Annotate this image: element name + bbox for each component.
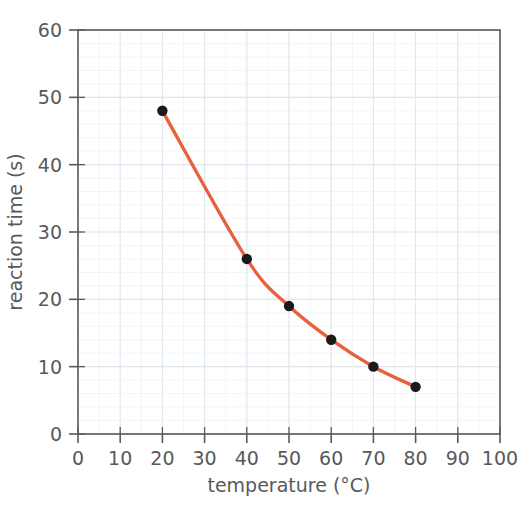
y-tick-label: 30 xyxy=(38,221,62,243)
y-axis-tick-labels: 0102030405060 xyxy=(38,19,62,445)
data-point-marker xyxy=(157,106,167,116)
x-tick-label: 80 xyxy=(404,447,428,469)
x-tick-label: 0 xyxy=(72,447,84,469)
x-tick-label: 30 xyxy=(193,447,217,469)
y-tick-label: 40 xyxy=(38,154,62,176)
reaction-time-line-chart: 0102030405060708090100 0102030405060 tem… xyxy=(0,0,520,508)
x-tick-label: 20 xyxy=(150,447,174,469)
y-tick-label: 60 xyxy=(38,19,62,41)
y-tick-label: 10 xyxy=(38,356,62,378)
y-axis-title: reaction time (s) xyxy=(4,153,26,310)
data-point-marker xyxy=(410,382,420,392)
data-point-marker xyxy=(242,254,252,264)
x-axis-tick-labels: 0102030405060708090100 xyxy=(72,447,518,469)
x-tick-label: 90 xyxy=(446,447,470,469)
data-point-marker xyxy=(326,335,336,345)
x-tick-label: 50 xyxy=(277,447,301,469)
x-tick-label: 100 xyxy=(482,447,518,469)
y-tick-label: 20 xyxy=(38,288,62,310)
x-tick-label: 40 xyxy=(235,447,259,469)
x-tick-label: 10 xyxy=(108,447,132,469)
data-point-marker xyxy=(368,361,378,371)
x-axis-title: temperature (°C) xyxy=(207,474,370,496)
y-tick-label: 0 xyxy=(50,423,62,445)
chart-figure: 0102030405060708090100 0102030405060 tem… xyxy=(0,0,520,508)
x-tick-label: 60 xyxy=(319,447,343,469)
y-tick-label: 50 xyxy=(38,86,62,108)
x-tick-label: 70 xyxy=(361,447,385,469)
data-point-marker xyxy=(284,301,294,311)
